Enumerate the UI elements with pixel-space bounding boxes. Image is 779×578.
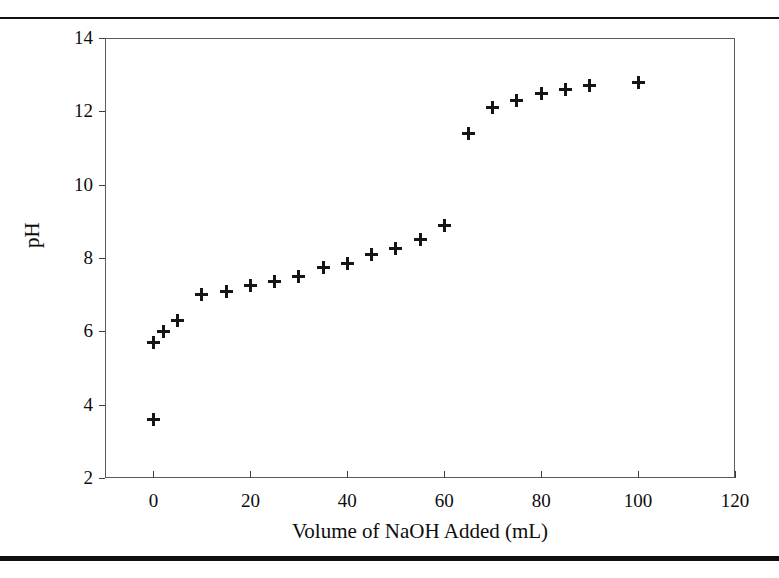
data-point-marker bbox=[220, 285, 233, 298]
y-tick-mark bbox=[99, 405, 105, 406]
titration-curve-figure: 2468101214 020406080100120 pH Volume of … bbox=[0, 20, 779, 554]
y-tick-label: 4 bbox=[49, 395, 93, 414]
data-point-marker bbox=[583, 79, 596, 92]
data-point-marker bbox=[632, 76, 645, 89]
data-point-marker bbox=[341, 257, 354, 270]
data-point-marker bbox=[535, 87, 548, 100]
x-tick-label: 60 bbox=[414, 491, 474, 510]
x-tick-label: 80 bbox=[511, 491, 571, 510]
y-tick-mark bbox=[99, 331, 105, 332]
data-point-marker bbox=[389, 242, 402, 255]
x-tick-mark bbox=[250, 471, 251, 478]
y-tick-mark bbox=[99, 258, 105, 259]
y-tick-mark bbox=[99, 185, 105, 186]
page-rule-bottom bbox=[0, 556, 779, 561]
x-tick-label: 40 bbox=[317, 491, 377, 510]
y-tick-mark bbox=[99, 111, 105, 112]
x-tick-mark bbox=[153, 471, 154, 478]
x-axis-title: Volume of NaOH Added (mL) bbox=[105, 520, 735, 542]
x-tick-label: 0 bbox=[123, 491, 183, 510]
scanned-page: 2468101214 020406080100120 pH Volume of … bbox=[0, 0, 779, 578]
data-point-marker bbox=[157, 325, 170, 338]
y-axis-title: pH bbox=[22, 222, 43, 248]
y-tick-mark bbox=[99, 478, 105, 479]
data-point-marker bbox=[462, 127, 475, 140]
data-point-marker bbox=[559, 83, 572, 96]
x-tick-label: 100 bbox=[608, 491, 668, 510]
data-point-marker bbox=[171, 314, 184, 327]
data-point-marker bbox=[147, 413, 160, 426]
y-tick-label: 6 bbox=[49, 321, 93, 340]
plot-area bbox=[105, 38, 735, 478]
data-point-marker bbox=[292, 270, 305, 283]
data-point-marker bbox=[510, 94, 523, 107]
data-point-marker bbox=[244, 279, 257, 292]
x-tick-mark bbox=[444, 471, 445, 478]
x-tick-mark bbox=[541, 471, 542, 478]
page-rule-top bbox=[0, 17, 779, 19]
y-tick-label: 10 bbox=[49, 175, 93, 194]
y-tick-label: 14 bbox=[49, 28, 93, 47]
y-tick-label: 2 bbox=[49, 468, 93, 487]
data-point-marker bbox=[268, 275, 281, 288]
data-point-marker bbox=[414, 233, 427, 246]
x-tick-mark bbox=[638, 471, 639, 478]
data-point-marker bbox=[365, 248, 378, 261]
data-point-marker bbox=[486, 101, 499, 114]
cropped-header-text bbox=[8, 0, 128, 9]
x-tick-label: 20 bbox=[220, 491, 280, 510]
data-point-marker bbox=[195, 288, 208, 301]
y-tick-mark bbox=[99, 38, 105, 39]
y-tick-label: 8 bbox=[49, 248, 93, 267]
x-tick-mark bbox=[347, 471, 348, 478]
x-tick-label: 120 bbox=[705, 491, 765, 510]
x-tick-mark bbox=[735, 471, 736, 478]
data-point-marker bbox=[438, 219, 451, 232]
y-tick-label: 12 bbox=[49, 101, 93, 120]
data-point-marker bbox=[317, 261, 330, 274]
